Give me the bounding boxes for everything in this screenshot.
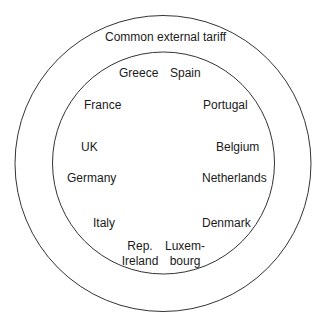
member-france: France bbox=[84, 98, 121, 113]
customs-union-diagram: Common external tariff Greece Spain Fran… bbox=[0, 0, 327, 327]
circles-graphic bbox=[0, 0, 327, 327]
member-belgium: Belgium bbox=[216, 140, 259, 155]
member-rep-ireland: Rep. Ireland bbox=[121, 239, 159, 269]
member-spain: Spain bbox=[170, 66, 201, 81]
outer-ring-label: Common external tariff bbox=[105, 30, 226, 45]
member-germany: Germany bbox=[67, 171, 116, 186]
member-luxembourg-line1: Luxem- bbox=[164, 239, 206, 254]
member-italy: Italy bbox=[93, 216, 115, 231]
member-uk: UK bbox=[81, 140, 98, 155]
member-netherlands: Netherlands bbox=[202, 171, 267, 186]
member-rep-ireland-line2: Ireland bbox=[121, 254, 159, 269]
outer-ring-circle bbox=[15, 16, 311, 312]
member-luxembourg: Luxem- bourg bbox=[164, 239, 206, 269]
member-greece: Greece bbox=[119, 66, 158, 81]
member-portugal: Portugal bbox=[203, 98, 248, 113]
member-rep-ireland-line1: Rep. bbox=[121, 239, 159, 254]
member-denmark: Denmark bbox=[202, 216, 251, 231]
member-luxembourg-line2: bourg bbox=[164, 254, 206, 269]
